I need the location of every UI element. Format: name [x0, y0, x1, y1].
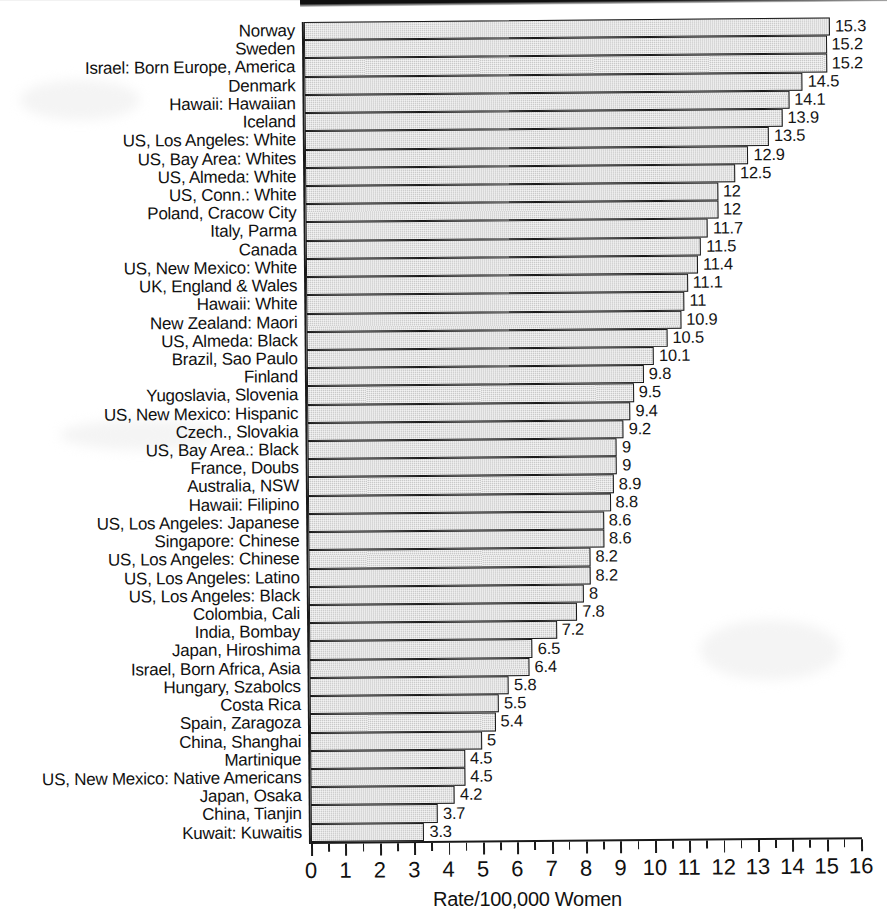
bar-value-label: 9: [622, 456, 631, 475]
mortality-rate-bar-chart: NorwaySwedenIsrael: Born Europe, America…: [0, 0, 887, 917]
bar-value-label: 11.4: [703, 254, 733, 273]
axis-tick-label: 13: [746, 854, 771, 880]
axis-tick-label: 15: [814, 853, 839, 879]
axis-tick-label: 6: [511, 856, 523, 882]
bar-value-label: 12: [723, 200, 741, 219]
bar: [311, 786, 456, 805]
bar-value-label: 8.8: [615, 492, 638, 511]
axis-tick: [620, 841, 622, 853]
axis-tick-minor: [844, 839, 846, 847]
bar: [310, 768, 465, 788]
category-label: Kuwait: Kuwaitis: [0, 824, 306, 845]
axis-tick: [311, 844, 313, 856]
axis-tick-minor: [706, 841, 708, 849]
bar-value-label: 5.4: [500, 712, 523, 731]
bar-value-label: 12.9: [753, 145, 784, 164]
bar-value-label: 4.5: [470, 748, 493, 767]
axis-tick-minor: [741, 840, 743, 848]
bar-value-label: 6.5: [538, 638, 561, 657]
axis-tick-minor: [431, 843, 433, 851]
bar-value-label: 7.8: [582, 602, 605, 621]
axis-tick-label: 10: [642, 855, 667, 881]
bar-value-label: 5.8: [514, 675, 537, 694]
bar-value-label: 14.5: [808, 71, 839, 90]
bar: [309, 639, 533, 659]
bar-value-label: 13.9: [787, 108, 818, 127]
axis-tick: [414, 843, 416, 855]
axis-tick-label: 7: [545, 856, 557, 882]
bar-value-label: 9: [622, 437, 631, 456]
axis-tick: [552, 842, 554, 854]
axis-tick-minor: [809, 840, 811, 848]
bar: [310, 713, 496, 733]
axis-tick-minor: [569, 842, 571, 850]
bar-value-label: 8.2: [595, 547, 618, 566]
axis-tick-minor: [775, 840, 777, 848]
bar: [311, 804, 438, 823]
bar: [309, 603, 577, 624]
bar-value-label: 11.5: [706, 236, 736, 255]
axis-tick: [758, 840, 760, 852]
axis-tick: [861, 839, 863, 851]
bar-value-label: 11.1: [693, 273, 723, 292]
bar-value-label: 12.5: [740, 163, 771, 182]
bar: [308, 548, 590, 569]
axis-tick-minor: [363, 844, 365, 852]
axis-tick-label: 5: [477, 856, 489, 882]
bar-value-label: 10.1: [659, 346, 690, 365]
axis-tick-minor: [397, 843, 399, 851]
category-axis-labels: NorwaySwedenIsrael: Born Europe, America…: [0, 22, 306, 845]
value-axis-tick-labels: 012345678910111213141516: [311, 853, 871, 888]
bar-value-label: 9.8: [649, 364, 672, 383]
axis-tick-label: 12: [711, 854, 736, 880]
bar-value-label: 9.4: [635, 401, 658, 420]
bar-value-label: 5: [487, 730, 496, 749]
axis-tick-minor: [638, 841, 640, 849]
axis-tick-minor: [328, 844, 330, 852]
bar: [310, 749, 465, 769]
axis-tick-label: 3: [408, 857, 420, 883]
axis-tick-label: 11: [678, 855, 701, 881]
bar-value-label: 8.6: [609, 529, 632, 548]
bar-value-label: 8.2: [595, 565, 618, 584]
axis-tick: [792, 840, 794, 852]
bar: [310, 676, 510, 696]
bar-value-label: 3.7: [443, 803, 466, 822]
axis-tick-label: 16: [849, 853, 874, 879]
axis-tick-label: 4: [442, 857, 454, 883]
axis-tick: [380, 843, 382, 855]
bar-value-label: 10.5: [672, 328, 703, 347]
bar-value-label: 10.9: [686, 309, 717, 328]
bar: [311, 823, 425, 842]
bar: [309, 621, 557, 641]
bar-value-label: 9.2: [629, 419, 652, 438]
axis-tick-label: 14: [780, 854, 805, 880]
bar: [309, 584, 584, 605]
bar-value-label: 5.5: [504, 693, 527, 712]
axis-tick-minor: [603, 841, 605, 849]
axis-tick: [345, 844, 347, 856]
axis-tick: [586, 842, 588, 854]
axis-tick: [723, 840, 725, 852]
axis-title: Rate/100,000 Women: [0, 888, 887, 911]
axis-tick: [517, 842, 519, 854]
bar-value-label: 13.5: [774, 126, 805, 145]
axis-tick: [689, 841, 691, 853]
bar: [310, 694, 499, 714]
bar-value-label: 11: [689, 291, 706, 310]
axis-tick-minor: [500, 842, 502, 850]
axis-tick-label: 9: [614, 855, 626, 881]
axis-tick-minor: [466, 843, 468, 851]
axis-tick-label: 0: [305, 858, 317, 884]
axis-title-text: Rate/100,000 Women: [265, 888, 622, 910]
bar-value-label: 8.6: [609, 510, 632, 529]
axis-tick-minor: [672, 841, 674, 849]
bar-value-label: 9.5: [639, 383, 662, 402]
axis-tick-label: 8: [580, 856, 592, 882]
bar-value-label: 14.1: [794, 90, 825, 109]
bar-value-label: 8: [589, 583, 598, 602]
axis-tick: [483, 842, 485, 854]
bar-value-label: 7.2: [562, 620, 585, 639]
bar: [309, 566, 591, 587]
bar-value-label: 4.2: [460, 785, 483, 804]
